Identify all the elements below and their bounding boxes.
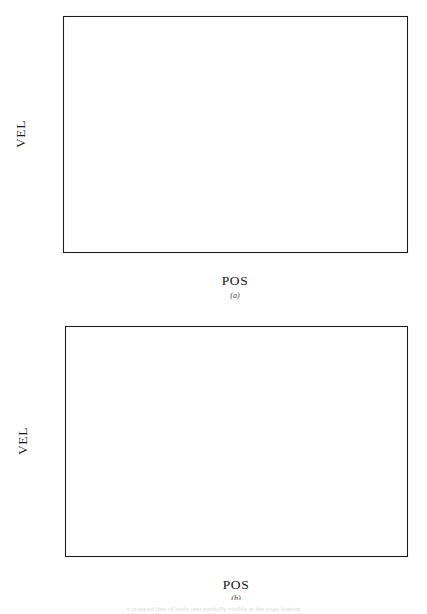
plot-a-panel-label: (a) (230, 291, 240, 300)
plot-a-ylabel: VEL (13, 120, 28, 148)
plot-b-ylabel: VEL (15, 427, 30, 455)
plot-b-frame (66, 327, 408, 557)
plot-panel-a: POS VEL (a) (0, 0, 427, 300)
figure-container: POS VEL (a) POS VEL (b) a cropped line o… (0, 0, 427, 614)
plot-b-xlabel: POS (223, 577, 250, 592)
plot-a-frame (64, 17, 408, 253)
plot-b-panel-label: (b) (231, 594, 241, 600)
plot-a-xlabel: POS (222, 273, 249, 288)
plot-a-svg: POS VEL (a) (0, 0, 427, 300)
caption-remnant: a cropped line of body text partially vi… (0, 604, 427, 614)
plot-b-svg: POS VEL (b) (0, 300, 427, 600)
plot-panel-b: POS VEL (b) (0, 300, 427, 600)
